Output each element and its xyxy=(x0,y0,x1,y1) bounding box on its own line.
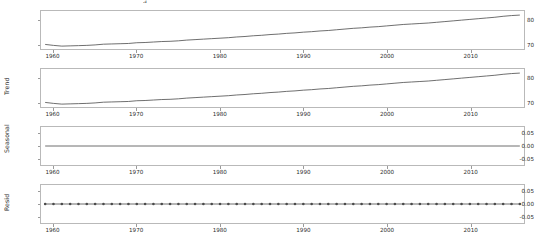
data-point-marker xyxy=(285,203,288,205)
ytick-mark xyxy=(38,78,41,79)
data-point-marker xyxy=(110,203,113,205)
data-point-marker xyxy=(435,203,438,205)
data-point-marker xyxy=(152,203,155,205)
ytick-mark xyxy=(38,45,41,46)
data-point-marker xyxy=(494,203,497,205)
ytick-mark xyxy=(38,146,41,147)
data-point-marker xyxy=(444,203,447,205)
data-point-marker xyxy=(169,203,172,205)
ytick-label-trend: 80 xyxy=(503,75,537,81)
data-point-marker xyxy=(227,203,230,205)
axes-trend xyxy=(40,68,525,108)
data-point-marker xyxy=(177,203,180,205)
data-point-marker xyxy=(86,203,89,205)
data-line-trend xyxy=(45,73,520,104)
ytick-mark xyxy=(38,191,41,192)
data-point-marker xyxy=(377,203,380,205)
ylabel-seasonal: Seasonal xyxy=(0,132,14,160)
data-point-marker xyxy=(335,203,338,205)
data-point-marker xyxy=(127,203,130,205)
ytick-label-resid: 0.00 xyxy=(503,201,537,207)
xtick-label-1980: 1980 xyxy=(213,169,227,175)
data-point-marker xyxy=(477,203,480,205)
panel-trend: Trend 8070 196019701980199020002010 xyxy=(0,68,537,116)
xtick-label-2000: 2000 xyxy=(380,169,394,175)
ylabel-resid-text: Resid xyxy=(0,197,17,211)
xtick-label-1980: 1980 xyxy=(213,227,227,233)
xtick-label-1960: 1960 xyxy=(45,111,59,117)
ytick-label-observed: 80 xyxy=(503,17,537,23)
data-point-marker xyxy=(385,203,388,205)
ytick-label-resid: 0.05 xyxy=(503,188,537,194)
data-point-marker xyxy=(144,203,147,205)
data-point-marker xyxy=(69,203,72,205)
ylabel-trend: Trend xyxy=(0,78,14,98)
xtick-label-1990: 1990 xyxy=(296,111,310,117)
data-point-marker xyxy=(410,203,413,205)
xtick-label-2000: 2000 xyxy=(380,111,394,117)
ytick-label-seasonal: -0.05 xyxy=(503,156,537,162)
axes-resid xyxy=(40,184,525,224)
data-point-marker xyxy=(244,203,247,205)
xtick-label-1990: 1990 xyxy=(296,53,310,59)
xtick-label-1970: 1970 xyxy=(129,227,143,233)
data-point-marker xyxy=(485,203,488,205)
ytick-label-trend: 70 xyxy=(503,100,537,106)
data-point-marker xyxy=(202,203,205,205)
data-point-marker xyxy=(319,203,322,205)
xtick-label-1970: 1970 xyxy=(129,169,143,175)
data-point-marker xyxy=(135,203,138,205)
xtick-label-1990: 1990 xyxy=(296,227,310,233)
data-point-marker xyxy=(452,203,455,205)
data-point-marker xyxy=(402,203,405,205)
ytick-label-resid: -0.05 xyxy=(503,214,537,220)
ytick-label-seasonal: 0.05 xyxy=(503,130,537,136)
data-point-marker xyxy=(302,203,305,205)
xtick-label-2000: 2000 xyxy=(380,53,394,59)
panel-resid: Resid 0.050.00-0.05 19601970198019902000… xyxy=(0,184,537,232)
series-seasonal xyxy=(41,127,524,165)
data-point-marker xyxy=(310,203,313,205)
data-point-marker xyxy=(360,203,363,205)
xtick-label-1990: 1990 xyxy=(296,169,310,175)
xtick-label-1960: 1960 xyxy=(45,227,59,233)
axes-seasonal xyxy=(40,126,525,166)
data-point-marker xyxy=(469,203,472,205)
xtick-label-1980: 1980 xyxy=(213,111,227,117)
xtick-label-2010: 2010 xyxy=(464,227,478,233)
data-point-marker xyxy=(269,203,272,205)
ylabel-seasonal-text: Seasonal xyxy=(0,139,21,153)
series-trend xyxy=(41,69,524,107)
ytick-mark xyxy=(38,20,41,21)
xtick-label-1970: 1970 xyxy=(129,111,143,117)
data-point-marker xyxy=(344,203,347,205)
xtick-label-1980: 1980 xyxy=(213,53,227,59)
data-point-marker xyxy=(210,203,213,205)
ytick-label-observed: 70 xyxy=(503,42,537,48)
ytick-mark xyxy=(38,103,41,104)
data-point-marker xyxy=(327,203,330,205)
data-point-marker xyxy=(44,203,47,205)
data-point-marker xyxy=(219,203,222,205)
panel-observed: 8070 196019701980199020002010 xyxy=(0,10,537,58)
xtick-label-2010: 2010 xyxy=(464,111,478,117)
data-line-observed xyxy=(45,15,520,46)
ytick-mark xyxy=(38,159,41,160)
seasonal-decomposition-figure: d 8070 196019701980199020002010 Trend 80… xyxy=(0,0,537,246)
panel-seasonal: Seasonal 0.050.00-0.05 19601970198019902… xyxy=(0,126,537,174)
data-point-marker xyxy=(194,203,197,205)
data-point-marker xyxy=(102,203,105,205)
data-point-marker xyxy=(419,203,422,205)
data-point-marker xyxy=(77,203,80,205)
xtick-label-1960: 1960 xyxy=(45,53,59,59)
xtick-label-2010: 2010 xyxy=(464,169,478,175)
data-point-marker xyxy=(294,203,297,205)
xtick-label-2010: 2010 xyxy=(464,53,478,59)
series-resid xyxy=(41,185,524,223)
data-point-marker xyxy=(352,203,355,205)
data-point-marker xyxy=(460,203,463,205)
data-point-marker xyxy=(52,203,55,205)
xtick-label-1970: 1970 xyxy=(129,53,143,59)
data-point-marker xyxy=(260,203,263,205)
ylabel-resid: Resid xyxy=(0,194,14,214)
